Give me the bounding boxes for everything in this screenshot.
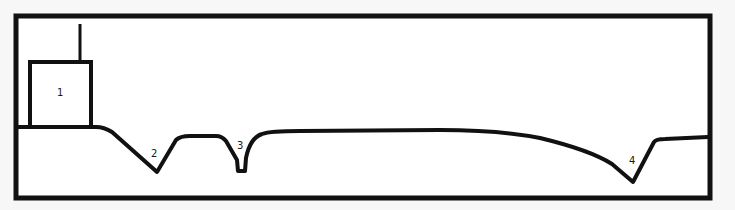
label-1: 1 [57,87,63,98]
profile-diagram: 1 2 3 4 [0,0,735,210]
label-3: 3 [237,140,243,151]
label-4: 4 [629,155,635,166]
outer-frame [16,16,710,198]
label-2: 2 [151,148,157,159]
